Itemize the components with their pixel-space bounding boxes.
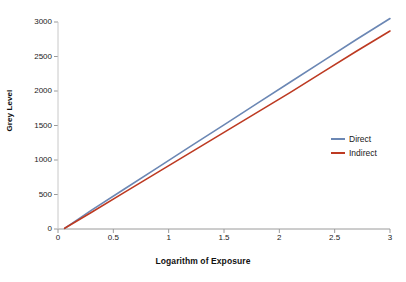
y-tick-label: 2500 [16,53,52,61]
x-tick-label: 2.5 [320,234,350,242]
legend-item: Indirect [331,146,377,160]
x-tick-label: 0 [43,234,73,242]
y-tick-label: 500 [16,191,52,199]
series-line-indirect [65,31,390,228]
series-line-direct [65,19,390,229]
y-axis-title: Grey Level [5,71,14,151]
y-tick-label: 3000 [16,18,52,26]
legend-swatch-icon [331,152,345,154]
x-axis-tick-labels: 00.511.522.53 [0,234,406,248]
y-tick-label: 1500 [16,122,52,130]
chart-legend: DirectIndirect [331,132,377,160]
legend-swatch-icon [331,138,345,140]
y-tick-label: 2000 [16,87,52,95]
x-tick-label: 3 [375,234,405,242]
legend-label: Indirect [349,149,377,158]
x-axis-title: Logarithm of Exposure [0,256,406,266]
x-tick-label: 1 [154,234,184,242]
y-tick-label: 1000 [16,156,52,164]
legend-label: Direct [349,135,371,144]
legend-item: Direct [331,132,377,146]
x-tick-label: 0.5 [98,234,128,242]
x-tick-label: 2 [264,234,294,242]
line-chart: 050010001500200025003000 00.511.522.53 G… [0,0,406,282]
y-tick-label: 0 [16,225,52,233]
x-tick-label: 1.5 [209,234,239,242]
